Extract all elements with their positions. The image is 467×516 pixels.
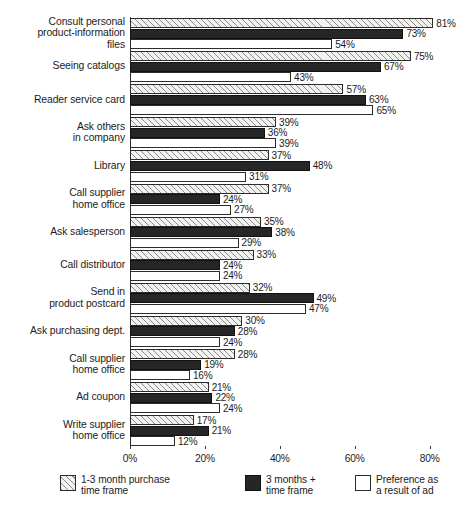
category-label-line: home office: [2, 364, 125, 376]
legend-label: 3 months +time frame: [266, 474, 316, 497]
category-label-line: home office: [2, 199, 125, 211]
bar-value-label: 43%: [294, 73, 313, 83]
bar-value-label: 27%: [234, 205, 253, 215]
bar-value-label: 24%: [223, 338, 242, 348]
bar-chart: Consult personalproduct-informationfiles…: [0, 0, 467, 516]
bar-value-label: 19%: [204, 360, 223, 370]
bar-hatched: [130, 283, 250, 293]
bar-white: [130, 72, 291, 82]
category-label-line: Call supplier: [2, 187, 125, 199]
bar-hatched: [130, 316, 242, 326]
bar-value-label: 24%: [223, 404, 242, 414]
category-label-line: product-information: [2, 27, 125, 39]
bar-value-label: 31%: [249, 172, 268, 182]
bar-group: 35%38%29%: [130, 217, 467, 248]
category-label-line: product postcard: [2, 298, 125, 310]
bar-group: 57%63%65%: [130, 84, 467, 115]
bar-hatched: [130, 184, 269, 194]
bar-black: [130, 393, 212, 403]
bar-group: 37%24%27%: [130, 184, 467, 215]
category-label: Call distributor: [2, 259, 130, 271]
category-label-line: Write supplier: [2, 419, 125, 431]
bar-white: [130, 105, 373, 115]
bar-group: 39%36%39%: [130, 117, 467, 148]
bar-hatched: [130, 382, 209, 392]
bar-value-label: 24%: [223, 271, 242, 281]
bar-value-label: 47%: [309, 304, 328, 314]
category-label-line: home office: [2, 430, 125, 442]
bar-black: [130, 128, 265, 138]
bar-hatched: [130, 51, 411, 61]
bar-hatched: [130, 84, 343, 94]
bar-value-label: 28%: [238, 327, 257, 337]
bar-value-label: 22%: [215, 393, 234, 403]
bar-value-label: 37%: [272, 184, 291, 194]
plot-area: Consult personalproduct-informationfiles…: [0, 0, 467, 455]
bar-value-label: 73%: [406, 29, 425, 39]
bar-hatched: [130, 415, 194, 425]
bar-hatched: [130, 217, 261, 227]
x-axis-tick-label: 60%: [345, 453, 365, 465]
category-label-line: Call supplier: [2, 353, 125, 365]
x-axis-tick-mark: [280, 446, 281, 449]
category-label: Ask salesperson: [2, 226, 130, 238]
category-label-line: Call distributor: [2, 259, 125, 271]
bar-white: [130, 39, 332, 49]
bar-white: [130, 138, 276, 148]
x-axis: 0%20%40%60%80%: [0, 449, 467, 471]
bar-value-label: 30%: [245, 316, 264, 326]
legend-label: 1-3 month purchasetime frame: [81, 474, 170, 497]
bar-black: [130, 95, 366, 105]
bar-white: [130, 271, 220, 281]
legend-label-line: 1-3 month purchase: [81, 474, 170, 485]
category-label: Send inproduct postcard: [2, 286, 130, 309]
bar-white: [130, 337, 220, 347]
bar-white: [130, 436, 175, 446]
bar-black: [130, 293, 314, 303]
legend-item: Preference asa result of ad: [355, 474, 438, 497]
bar-value-label: 75%: [414, 52, 433, 62]
bar-white: [130, 370, 190, 380]
legend-label-line: a result of ad: [376, 485, 438, 496]
category-label: Seeing catalogs: [2, 60, 130, 72]
bar-value-label: 39%: [279, 139, 298, 149]
x-axis-tick-label: 20%: [195, 453, 215, 465]
bar-group: 75%67%43%: [130, 51, 467, 82]
bar-value-label: 28%: [238, 350, 257, 360]
category-label: Ad coupon: [2, 391, 130, 403]
bar-black: [130, 161, 310, 171]
category-label-line: Ad coupon: [2, 391, 125, 403]
category-label-line: files: [2, 39, 125, 51]
bar-white: [130, 205, 231, 215]
category-label-line: Library: [2, 160, 125, 172]
bar-hatched: [130, 349, 235, 359]
bar-group: 37%48%31%: [130, 150, 467, 181]
bar-group: 81%73%54%: [130, 18, 467, 49]
category-label-line: Reader service card: [2, 94, 125, 106]
legend-item: 1-3 month purchasetime frame: [60, 474, 170, 497]
category-label: Call supplierhome office: [2, 353, 130, 376]
category-label-line: Consult personal: [2, 16, 125, 28]
x-axis-tick-mark: [205, 446, 206, 449]
bar-black: [130, 194, 220, 204]
legend-label-line: 3 months +: [266, 474, 316, 485]
bar-value-label: 24%: [223, 261, 242, 271]
bar-value-label: 12%: [178, 437, 197, 447]
bar-value-label: 39%: [279, 118, 298, 128]
bar-value-label: 21%: [212, 426, 231, 436]
x-axis-tick-mark: [430, 446, 431, 449]
bar-value-label: 48%: [313, 161, 332, 171]
category-label: Call supplierhome office: [2, 187, 130, 210]
bar-value-label: 67%: [384, 62, 403, 72]
bar-value-label: 32%: [253, 283, 272, 293]
legend-swatch-hatched: [60, 475, 76, 491]
bar-white: [130, 304, 306, 314]
bar-white: [130, 403, 220, 413]
bar-black: [130, 260, 220, 270]
x-axis-tick-mark: [355, 446, 356, 449]
bar-value-label: 54%: [335, 40, 354, 50]
bar-group: 33%24%24%: [130, 250, 467, 281]
legend-swatch-black: [245, 475, 261, 491]
category-label: Reader service card: [2, 94, 130, 106]
bar-value-label: 29%: [242, 238, 261, 248]
